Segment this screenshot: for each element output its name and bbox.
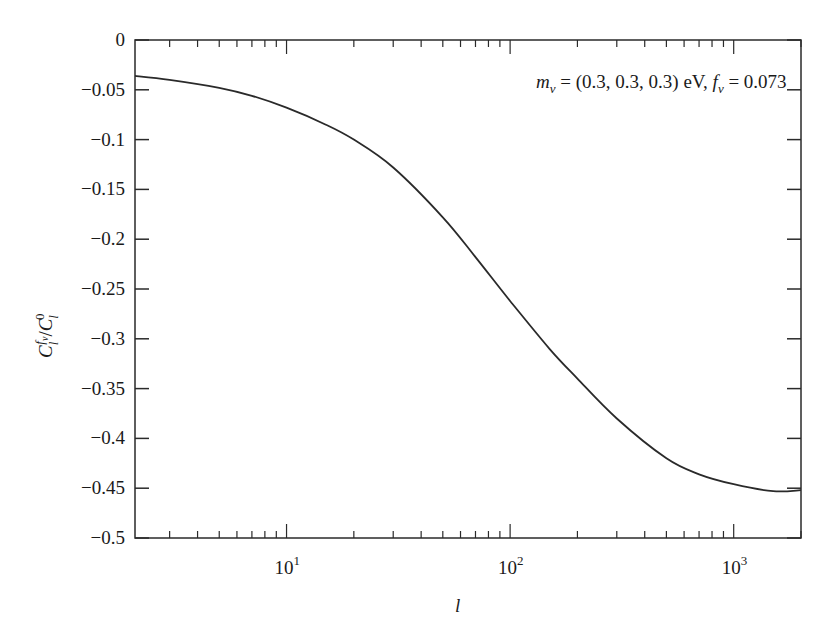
x-tick-label: 103 [722,553,748,578]
data-line [135,76,801,492]
y-tick-label: −0.4 [91,427,126,448]
y-tick-label: −0.2 [91,228,125,249]
y-axis-label: Clfν/Cl0 [32,314,61,358]
y-tick-label: −0.25 [81,278,125,299]
y-tick-label: 0 [116,29,126,50]
y-tick-label: −0.45 [81,477,125,498]
y-tick-label: −0.05 [81,79,125,100]
y-tick-label: −0.15 [81,178,125,199]
ticks [135,40,801,538]
y-tick-label: −0.35 [81,378,125,399]
plot-frame [135,40,801,538]
annotation: mν = (0.3, 0.3, 0.3) eV, fν = 0.073 [536,71,787,96]
y-tick-labels: 0−0.05−0.1−0.15−0.2−0.25−0.3−0.35−0.4−0.… [81,29,125,548]
x-axis-label: l [455,595,460,616]
x-tick-label: 102 [498,553,524,578]
y-tick-label: −0.3 [91,328,125,349]
y-tick-label: −0.5 [91,527,125,548]
svg-text:Clfν/Cl0: Clfν/Cl0 [32,314,61,358]
x-tick-labels: 101102103 [275,553,748,578]
x-tick-label: 101 [275,553,301,578]
y-tick-label: −0.1 [91,129,125,150]
line-chart: 0−0.05−0.1−0.15−0.2−0.25−0.3−0.35−0.4−0.… [0,0,827,637]
